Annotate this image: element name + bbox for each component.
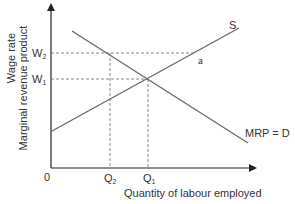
y-axis-label-mrp: Marginal revenue product — [17, 26, 29, 151]
demand-curve-label: MRP = D — [245, 127, 290, 139]
w1-label: W1 — [32, 73, 46, 86]
q1-label: Q1 — [143, 172, 156, 185]
point-a-label: a — [198, 54, 203, 66]
supply-curve — [52, 28, 239, 131]
origin-label: 0 — [44, 171, 50, 183]
supply-curve-label: S — [229, 19, 236, 31]
x-axis-label: Quantity of labour employed — [124, 187, 262, 199]
demand-curve — [72, 31, 248, 143]
q2-label: Q2 — [104, 172, 117, 185]
y-axis-label-wage-rate: Wage rate — [5, 33, 17, 83]
w2-label: W2 — [32, 47, 46, 60]
labour-market-diagram: Wage rate Marginal revenue product S MRP… — [0, 0, 295, 204]
